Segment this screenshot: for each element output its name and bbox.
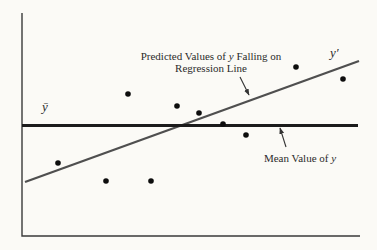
regression-figure: ȳ y′ Predicted Values of y Falling on Re… (0, 0, 377, 250)
mean-annotation-y-symbol: y (331, 152, 336, 164)
y-prime-label: y′ (330, 45, 339, 61)
data-point (220, 121, 226, 127)
data-point (243, 132, 249, 138)
regression-annotation: Predicted Values of y Falling on Regress… (111, 51, 311, 74)
data-point (125, 91, 131, 97)
regression-annotation-text: Predicted Values of (141, 50, 229, 62)
data-point (55, 160, 61, 166)
mean-annotation: Mean Value of y (230, 152, 370, 164)
data-point (174, 103, 180, 109)
regression-annotation-line2: Regression Line (175, 62, 247, 74)
y-bar-label: ȳ (42, 99, 48, 115)
regression-annotation-text-2: Falling on (234, 50, 282, 62)
data-point (103, 178, 109, 184)
annotation-arrow (240, 77, 249, 95)
data-point (148, 178, 154, 184)
data-point (340, 76, 346, 82)
mean-annotation-text: Mean Value of (264, 152, 331, 164)
plot-svg (0, 0, 377, 250)
data-point (196, 110, 202, 116)
annotation-arrow (280, 128, 286, 147)
